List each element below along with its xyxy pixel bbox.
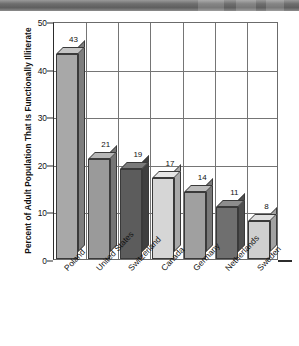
- gridline-horizontal: [54, 118, 277, 119]
- bar-front-face: [88, 159, 110, 259]
- plot-area: 010203040504321191714118: [53, 22, 278, 260]
- y-tick-mark: [47, 165, 53, 166]
- axis-baseline-stub: [278, 260, 292, 262]
- bar-value-label: 8: [264, 202, 268, 211]
- y-tick-label: 20: [38, 161, 47, 171]
- bar-front-face: [184, 192, 206, 259]
- y-tick-mark: [47, 23, 53, 24]
- y-tick-mark: [47, 213, 53, 214]
- bar-value-label: 43: [69, 35, 78, 44]
- bar-value-label: 14: [198, 173, 207, 182]
- bar[interactable]: [88, 159, 110, 259]
- y-tick-label: 30: [38, 113, 47, 123]
- y-axis-title: Percent of Adult Population That Is Func…: [24, 21, 33, 261]
- y-tick-mark: [47, 261, 53, 262]
- bar-side-face: [174, 164, 181, 252]
- y-tick-mark: [47, 118, 53, 119]
- y-tick-mark: [47, 70, 53, 71]
- bar-value-label: 17: [166, 159, 175, 168]
- bar-chart-figure: Percent of Adult Population That Is Func…: [0, 11, 299, 346]
- bar-value-label: 11: [230, 188, 238, 197]
- scan-artifact-band: [0, 0, 299, 11]
- bar-side-face: [142, 155, 149, 252]
- y-tick-label: 0: [42, 256, 47, 266]
- bar[interactable]: [56, 54, 78, 259]
- bar[interactable]: [184, 192, 206, 259]
- bar-front-face: [56, 54, 78, 259]
- bar-value-label: 21: [101, 140, 110, 149]
- y-tick-label: 10: [38, 208, 47, 218]
- y-tick-label: 40: [38, 66, 47, 76]
- bar-value-label: 19: [133, 150, 142, 159]
- bar-side-face: [78, 40, 85, 252]
- y-tick-label: 50: [38, 18, 47, 28]
- bar-side-face: [110, 145, 117, 252]
- gridline-horizontal: [54, 71, 277, 72]
